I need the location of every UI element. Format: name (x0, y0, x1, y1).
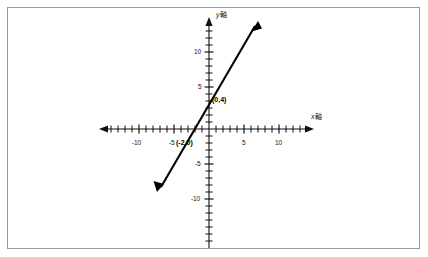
plotted-line (154, 21, 263, 192)
y-tick-label-10: 10 (194, 48, 201, 55)
x-tick-label--10: -10 (132, 139, 141, 146)
x-tick-label--5: -5 (169, 139, 174, 146)
y-axis-arrow-up (205, 17, 212, 26)
y-axis (205, 17, 214, 248)
y-axis-label-word: 軸 (220, 11, 227, 18)
point-label-x-intercept: (-2,0) (176, 139, 193, 146)
x-axis-label-word: 軸 (315, 113, 322, 120)
x-axis-arrow-right (305, 125, 314, 132)
x-axis-label: x軸 (311, 111, 322, 121)
x-tick-label-5: 5 (242, 139, 245, 146)
x-axis (99, 125, 314, 134)
y-tick-label-5: 5 (198, 83, 201, 90)
point-label-y-intercept: (0,4) (212, 96, 226, 103)
y-axis-label: y軸 (216, 9, 227, 19)
graph-figure: -10 -5 5 10 10 5 -5 -10 y軸 x軸 (0,4) (-2,… (0, 0, 428, 257)
y-tick-label--5: -5 (195, 160, 200, 167)
line-arrow-upper-right (252, 21, 263, 32)
x-tick-label-10: 10 (275, 139, 282, 146)
x-axis-arrow-left (99, 125, 108, 132)
y-tick-label--10: -10 (191, 195, 200, 202)
coordinate-plane (0, 0, 428, 257)
